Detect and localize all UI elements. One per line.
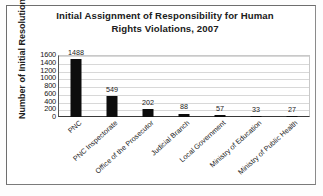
bar-value-label: 1488 — [68, 49, 84, 56]
y-tick-label: 0 — [52, 113, 56, 120]
bar-group: 549 — [97, 40, 127, 117]
bar-value-label: 88 — [180, 103, 188, 110]
bar-value-label: 27 — [288, 106, 296, 113]
bar-value-label: 549 — [106, 86, 118, 93]
chart-title: Initial Assignment of Responsibility for… — [34, 10, 296, 35]
bar-group: 1488 — [61, 40, 91, 117]
x-tick-label-text: PNC — [67, 119, 83, 135]
bar — [107, 96, 118, 117]
bar-value-label: 57 — [216, 105, 224, 112]
x-axis-tick-labels: PNCPNC InspectorateOffice of the Prosecu… — [58, 119, 310, 189]
chart-title-line-2: Rights Violations, 2007 — [111, 23, 218, 34]
y-axis-tick-labels: 16001400120010008006004002000 — [26, 50, 56, 118]
chart-figure: Initial Assignment of Responsibility for… — [0, 0, 323, 196]
chart-title-line-1: Initial Assignment of Responsibility for… — [56, 10, 273, 21]
bar — [71, 59, 82, 117]
bar-value-label: 33 — [252, 106, 260, 113]
